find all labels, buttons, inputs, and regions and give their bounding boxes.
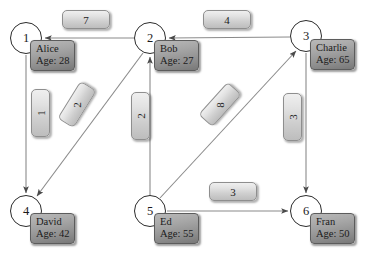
- node-label-ed[interactable]: Ed Age: 55: [154, 213, 199, 244]
- edge-weight-5-6[interactable]: 3: [209, 182, 257, 201]
- edge-weight-1-4[interactable]: 1: [31, 89, 50, 137]
- node-label-charlie[interactable]: Charlie Age: 65: [310, 39, 355, 70]
- node-label-fran[interactable]: Fran Age: 50: [310, 213, 355, 244]
- node-name-bob: Bob: [160, 43, 194, 55]
- node-name-fran: Fran: [316, 216, 350, 228]
- node-label-alice[interactable]: Alice Age: 28: [30, 40, 75, 71]
- node-id-3: 3: [303, 29, 309, 44]
- node-label-david[interactable]: David Age: 42: [30, 213, 75, 244]
- edge-weight-3-6-text: 3: [287, 114, 299, 120]
- node-age-ed: Age: 55: [160, 228, 194, 240]
- edge-2-4: [37, 53, 143, 196]
- edge-weight-3-2-text: 4: [224, 14, 230, 26]
- node-id-6: 6: [303, 204, 309, 219]
- node-id-5: 5: [147, 204, 153, 219]
- edge-3-2: [169, 37, 290, 38]
- node-name-charlie: Charlie: [316, 42, 350, 54]
- node-label-bob[interactable]: Bob Age: 27: [154, 40, 199, 71]
- edge-weight-2-4-text: 2: [71, 102, 83, 108]
- edge-weight-1-4-text: 1: [35, 110, 47, 116]
- edge-weight-5-2-text: 2: [135, 113, 147, 119]
- edge-weight-2-1[interactable]: 7: [62, 10, 110, 29]
- edge-weight-3-2[interactable]: 4: [203, 10, 251, 29]
- node-id-2: 2: [147, 31, 153, 46]
- node-age-bob: Age: 27: [160, 55, 194, 67]
- node-id-4: 4: [23, 204, 29, 219]
- node-age-david: Age: 42: [36, 228, 70, 240]
- node-name-david: David: [36, 216, 70, 228]
- edge-weight-5-2[interactable]: 2: [131, 92, 150, 140]
- node-name-ed: Ed: [160, 216, 194, 228]
- edge-weight-5-6-text: 3: [230, 186, 236, 198]
- edge-weight-5-3-text: 8: [214, 102, 226, 108]
- edge-weight-2-1-text: 7: [83, 14, 89, 26]
- node-age-charlie: Age: 65: [316, 54, 350, 66]
- node-name-alice: Alice: [36, 43, 70, 55]
- edge-weight-3-6[interactable]: 3: [283, 93, 302, 141]
- graph-diagram-canvas: 1 2 3 4 5 6 Alice Age: 28 Bob Age: 27 Ch…: [0, 0, 369, 257]
- node-id-1: 1: [23, 31, 29, 46]
- edge-5-3: [160, 51, 296, 198]
- node-age-fran: Age: 50: [316, 228, 350, 240]
- node-age-alice: Age: 28: [36, 55, 70, 67]
